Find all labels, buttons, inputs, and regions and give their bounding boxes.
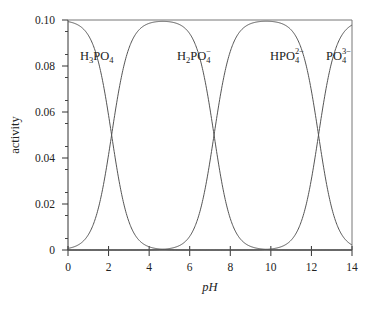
y-tick-label: 0.08 [35, 60, 55, 72]
x-tick-label: 14 [346, 261, 358, 273]
x-tick-label: 2 [106, 261, 112, 273]
speciation-chart: 0246810121400.020.040.060.080.10 H3PO4H2… [0, 0, 375, 309]
y-tick-label: 0.02 [35, 198, 55, 210]
x-tick-label: 4 [146, 261, 152, 273]
x-tick-label: 0 [65, 261, 71, 273]
y-tick-label: 0 [49, 244, 55, 256]
species-label: H2PO4− [177, 46, 211, 65]
species-label: PO43− [326, 46, 351, 65]
species-label: HPO42− [270, 46, 304, 65]
y-tick-label: 0.10 [35, 14, 55, 26]
x-tick-label: 10 [265, 261, 277, 273]
species-label: H3PO4 [80, 49, 114, 65]
x-tick-label: 12 [306, 261, 318, 273]
species-labels: H3PO4H2PO4−HPO42−PO43− [80, 46, 351, 65]
x-tick-label: 8 [227, 261, 233, 273]
x-axis-label: pH [201, 280, 218, 294]
y-tick-label: 0.06 [35, 106, 55, 118]
x-tick-label: 6 [187, 261, 193, 273]
y-axis-label: activity [8, 116, 22, 154]
y-tick-label: 0.04 [35, 152, 55, 164]
